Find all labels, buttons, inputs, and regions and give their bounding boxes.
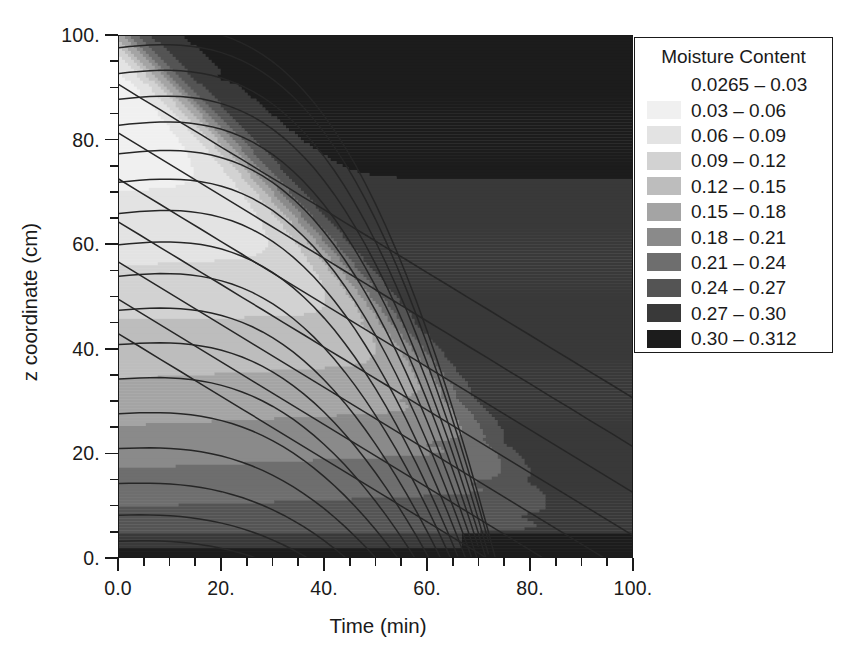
x-minor-tick — [555, 558, 557, 566]
legend-entry: 0.06 – 0.09 — [635, 123, 832, 148]
legend-label: 0.27 – 0.30 — [691, 304, 786, 323]
legend-swatch — [647, 126, 681, 144]
y-minor-tick — [110, 426, 118, 428]
x-tick-label: 40. — [310, 577, 338, 600]
x-major-tick — [529, 558, 531, 571]
legend-entry: 0.30 – 0.312 — [635, 326, 832, 351]
y-minor-tick — [110, 400, 118, 402]
x-minor-tick — [581, 558, 583, 566]
y-minor-tick — [110, 217, 118, 219]
legend-label: 0.21 – 0.24 — [691, 253, 786, 272]
y-minor-tick — [110, 505, 118, 507]
legend-label: 0.09 – 0.12 — [691, 151, 786, 170]
legend-label: 0.12 – 0.15 — [691, 177, 786, 196]
legend-label: 0.15 – 0.18 — [691, 202, 786, 221]
y-major-tick — [105, 557, 118, 559]
y-minor-tick — [110, 87, 118, 89]
legend-box: Moisture Content 0.0265 – 0.030.03 – 0.0… — [634, 37, 833, 353]
legend-entry: 0.03 – 0.06 — [635, 97, 832, 122]
y-minor-tick — [110, 374, 118, 376]
y-tick-label: 80. — [10, 128, 100, 151]
legend-swatch — [647, 76, 681, 94]
legend-swatch — [647, 177, 681, 195]
x-tick-label: 80. — [516, 577, 544, 600]
legend-title: Moisture Content — [635, 46, 832, 68]
x-major-tick — [426, 558, 428, 571]
legend-label: 0.30 – 0.312 — [691, 329, 797, 348]
y-major-tick — [105, 34, 118, 36]
x-minor-tick — [349, 558, 351, 566]
legend-entry: 0.21 – 0.24 — [635, 250, 832, 275]
contour-plot-figure: 0.020.40.60.80.100.0.20.40.60.80.100. Ti… — [0, 0, 847, 656]
y-major-tick — [105, 348, 118, 350]
x-minor-tick — [194, 558, 196, 566]
legend-entry: 0.18 – 0.21 — [635, 224, 832, 249]
y-minor-tick — [110, 479, 118, 481]
y-minor-tick — [110, 191, 118, 193]
x-minor-tick — [452, 558, 454, 566]
legend-swatch — [647, 228, 681, 246]
legend-swatch — [647, 101, 681, 119]
legend-label: 0.03 – 0.06 — [691, 101, 786, 120]
legend-entry: 0.09 – 0.12 — [635, 148, 832, 173]
y-minor-tick — [110, 165, 118, 167]
x-minor-tick — [169, 558, 171, 566]
x-minor-tick — [143, 558, 145, 566]
y-tick-label: 100. — [10, 24, 100, 47]
legend-swatch — [647, 152, 681, 170]
legend-label: 0.0265 – 0.03 — [691, 75, 807, 94]
y-major-tick — [105, 243, 118, 245]
legend-entry: 0.0265 – 0.03 — [635, 72, 832, 97]
x-tick-label: 100. — [614, 577, 653, 600]
x-minor-tick — [375, 558, 377, 566]
y-major-tick — [105, 453, 118, 455]
legend-swatch — [647, 203, 681, 221]
x-minor-tick — [606, 558, 608, 566]
legend-label: 0.06 – 0.09 — [691, 126, 786, 145]
x-major-tick — [220, 558, 222, 571]
x-tick-label: 60. — [413, 577, 441, 600]
x-minor-tick — [272, 558, 274, 566]
y-tick-label: 20. — [10, 442, 100, 465]
x-minor-tick — [478, 558, 480, 566]
legend-entry: 0.12 – 0.15 — [635, 174, 832, 199]
y-minor-tick — [110, 113, 118, 115]
y-minor-tick — [110, 60, 118, 62]
x-tick-label: 0.0 — [104, 577, 132, 600]
plot-area — [118, 35, 633, 558]
x-major-tick — [632, 558, 634, 571]
x-minor-tick — [503, 558, 505, 566]
legend-entries: 0.0265 – 0.030.03 – 0.060.06 – 0.090.09 … — [635, 72, 832, 351]
legend-entry: 0.27 – 0.30 — [635, 301, 832, 326]
x-tick-label: 20. — [207, 577, 235, 600]
x-minor-tick — [400, 558, 402, 566]
legend-swatch — [647, 304, 681, 322]
y-tick-label: 0. — [10, 547, 100, 570]
y-axis-title: z coordinate (cm) — [18, 223, 42, 381]
x-major-tick — [323, 558, 325, 571]
x-axis-title: Time (min) — [329, 614, 426, 638]
x-minor-tick — [246, 558, 248, 566]
legend-label: 0.24 – 0.27 — [691, 278, 786, 297]
legend-swatch — [647, 253, 681, 271]
y-minor-tick — [110, 270, 118, 272]
legend-entry: 0.15 – 0.18 — [635, 199, 832, 224]
x-minor-tick — [297, 558, 299, 566]
x-major-tick — [117, 558, 119, 571]
legend-swatch — [647, 330, 681, 348]
y-minor-tick — [110, 322, 118, 324]
y-minor-tick — [110, 296, 118, 298]
contour-lines — [119, 36, 632, 557]
y-minor-tick — [110, 531, 118, 533]
legend-entry: 0.24 – 0.27 — [635, 275, 832, 300]
y-major-tick — [105, 139, 118, 141]
legend-swatch — [647, 279, 681, 297]
legend-label: 0.18 – 0.21 — [691, 228, 786, 247]
